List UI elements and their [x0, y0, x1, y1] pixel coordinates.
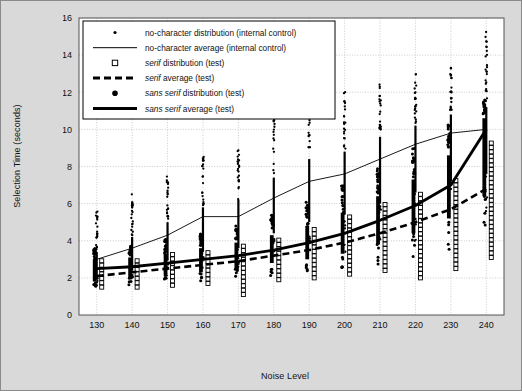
data-point	[167, 207, 169, 209]
data-point	[483, 221, 486, 224]
data-point	[96, 235, 98, 237]
data-point	[411, 239, 414, 242]
data-point	[127, 283, 130, 286]
data-point	[202, 157, 204, 159]
data-point	[412, 255, 415, 258]
data-point	[199, 237, 202, 240]
data-point	[305, 264, 308, 267]
data-point	[414, 112, 416, 114]
data-point	[446, 143, 449, 146]
data-point	[130, 229, 132, 231]
data-point	[414, 109, 416, 111]
data-point	[484, 111, 487, 114]
y-tick-label: 14	[63, 50, 72, 60]
data-point	[344, 122, 346, 124]
data-point	[447, 127, 450, 130]
data-point	[96, 280, 98, 282]
data-point	[413, 171, 416, 174]
data-point	[450, 106, 452, 108]
data-point	[165, 277, 168, 280]
data-point	[447, 123, 450, 126]
legend-label: sans serif distribution (test)	[145, 88, 244, 98]
data-point	[486, 64, 488, 66]
data-point	[344, 105, 346, 107]
data-point	[273, 128, 275, 130]
data-point	[341, 189, 344, 192]
x-tick-label: 210	[373, 320, 388, 330]
data-point	[131, 233, 133, 235]
data-point	[129, 251, 132, 254]
data-point	[485, 55, 487, 57]
data-point	[96, 232, 98, 234]
data-point	[166, 181, 168, 183]
data-point	[271, 214, 274, 217]
data-point	[376, 167, 379, 170]
data-point	[379, 85, 381, 87]
data-point	[200, 276, 203, 279]
data-point	[272, 131, 274, 133]
data-point	[131, 223, 133, 225]
data-point	[166, 175, 168, 177]
data-point	[164, 244, 167, 247]
data-point	[202, 160, 204, 162]
data-point	[166, 204, 168, 206]
data-point	[450, 97, 452, 99]
data-point	[202, 198, 204, 200]
data-point	[269, 274, 272, 277]
data-point	[379, 120, 381, 122]
data-point	[342, 211, 345, 214]
data-point	[237, 169, 239, 171]
x-tick-label: 190	[302, 320, 317, 330]
data-point	[198, 272, 201, 275]
data-point	[130, 217, 132, 219]
data-point	[236, 235, 239, 238]
data-point	[447, 243, 450, 246]
data-point	[199, 244, 202, 247]
data-point	[96, 218, 98, 220]
data-point	[412, 156, 415, 159]
data-point-dense	[237, 200, 239, 248]
data-point	[199, 233, 202, 236]
legend-label: serif average (test)	[145, 73, 214, 83]
data-point	[201, 192, 203, 194]
data-point	[273, 163, 275, 165]
data-point	[412, 232, 415, 235]
data-point	[380, 99, 382, 101]
data-point	[131, 202, 133, 204]
legend-label: sans serif average (test)	[145, 104, 234, 114]
x-tick-label: 140	[125, 320, 140, 330]
data-point	[482, 104, 485, 107]
data-point	[483, 108, 486, 111]
data-point	[415, 104, 417, 106]
data-point	[379, 95, 381, 97]
data-point	[341, 195, 344, 198]
x-tick-label: 160	[195, 320, 210, 330]
x-tick-label: 240	[479, 320, 494, 330]
data-point	[132, 220, 134, 222]
data-point	[96, 277, 98, 279]
data-point	[95, 214, 97, 216]
data-point	[202, 163, 204, 165]
data-point	[379, 113, 381, 115]
y-tick-label: 2	[67, 273, 72, 283]
data-point	[238, 166, 240, 168]
data-point	[163, 251, 166, 254]
data-point	[344, 108, 346, 110]
data-point	[237, 180, 239, 182]
data-point	[343, 132, 345, 134]
data-point	[272, 137, 274, 139]
data-point	[308, 124, 310, 126]
data-point	[238, 175, 240, 177]
data-point	[485, 81, 487, 83]
data-point	[450, 86, 452, 88]
data-point	[344, 129, 346, 131]
data-point	[93, 258, 96, 261]
data-point	[412, 175, 415, 178]
legend-marker-dot	[112, 91, 118, 97]
data-point	[308, 122, 310, 124]
data-point	[237, 149, 239, 151]
data-point	[486, 66, 488, 68]
data-point	[234, 268, 237, 271]
x-tick-label: 130	[89, 320, 104, 330]
data-point	[486, 97, 488, 99]
